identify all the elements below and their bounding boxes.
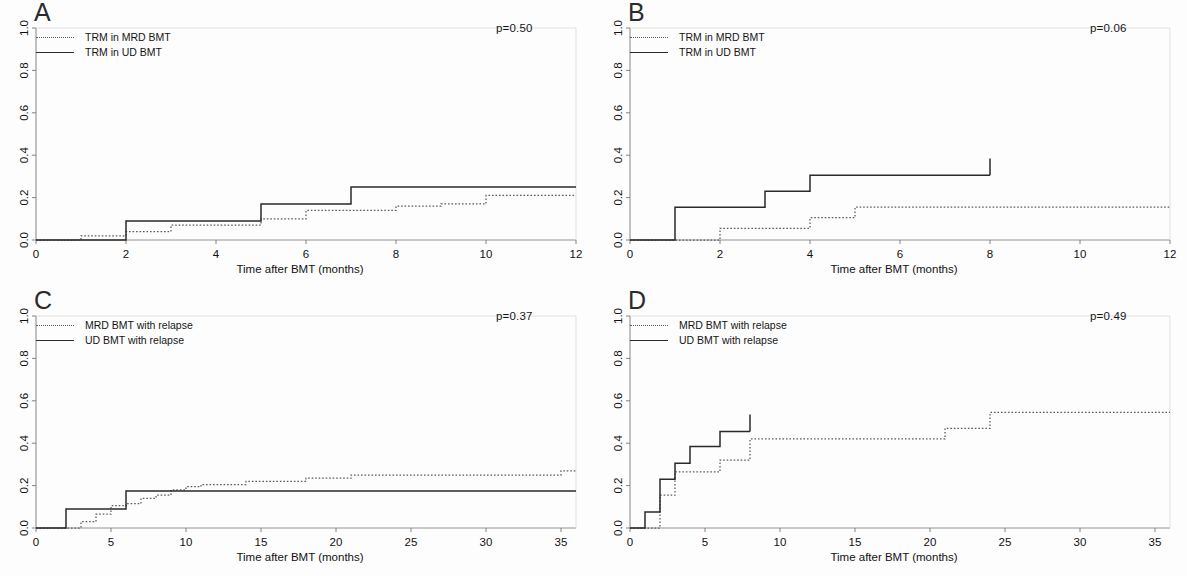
x-axis-title-c: Time after BMT (months) bbox=[150, 551, 450, 563]
y-tick-label: 0.8 bbox=[18, 350, 30, 366]
legend-label: UD BMT with relapse bbox=[85, 333, 184, 348]
x-tick-label: 35 bbox=[1149, 536, 1162, 548]
y-tick-label: 0.2 bbox=[612, 190, 624, 206]
series-line bbox=[36, 187, 576, 240]
legend-label: MRD BMT with relapse bbox=[85, 318, 193, 333]
series-line bbox=[36, 195, 576, 240]
dotted-line-swatch-icon bbox=[36, 37, 74, 38]
y-tick-label: 0.6 bbox=[612, 105, 624, 121]
y-tick-label: 0.0 bbox=[18, 520, 30, 536]
x-tick-label: 0 bbox=[627, 536, 633, 548]
x-tick-label: 30 bbox=[1074, 536, 1087, 548]
y-tick-label: 0.8 bbox=[18, 62, 30, 78]
legend-item: TRM in MRD BMT bbox=[36, 30, 171, 45]
x-tick-label: 12 bbox=[1164, 248, 1177, 260]
y-tick-label: 0.6 bbox=[18, 393, 30, 409]
x-tick-label: 0 bbox=[33, 536, 39, 548]
panel-d: D 0.00.20.40.60.81.005101520253035 p=0.4… bbox=[594, 288, 1187, 576]
x-tick-label: 15 bbox=[849, 536, 862, 548]
x-tick-label: 15 bbox=[255, 536, 268, 548]
x-tick-label: 10 bbox=[180, 536, 193, 548]
legend-label: UD BMT with relapse bbox=[679, 333, 778, 348]
x-tick-label: 25 bbox=[405, 536, 418, 548]
legend-b: TRM in MRD BMTTRM in UD BMT bbox=[630, 30, 765, 60]
x-tick-label: 20 bbox=[330, 536, 343, 548]
p-value-a: p=0.50 bbox=[496, 22, 533, 34]
dotted-line-swatch-icon bbox=[36, 325, 74, 326]
series-line bbox=[36, 491, 576, 528]
x-tick-label: 8 bbox=[987, 248, 993, 260]
p-value-c: p=0.37 bbox=[496, 310, 533, 322]
x-tick-label: 25 bbox=[999, 536, 1012, 548]
legend-label: TRM in MRD BMT bbox=[85, 30, 171, 45]
y-tick-label: 0.2 bbox=[612, 478, 624, 494]
solid-line-swatch-icon bbox=[630, 52, 668, 53]
x-tick-label: 8 bbox=[393, 248, 399, 260]
legend-item: TRM in UD BMT bbox=[630, 45, 765, 60]
legend-label: MRD BMT with relapse bbox=[679, 318, 787, 333]
x-tick-label: 6 bbox=[303, 248, 309, 260]
x-tick-label: 20 bbox=[924, 536, 937, 548]
legend-c: MRD BMT with relapseUD BMT with relapse bbox=[36, 318, 193, 348]
series-line bbox=[630, 412, 1170, 528]
x-tick-label: 35 bbox=[555, 536, 568, 548]
figure-container: A 0.00.20.40.60.81.0024681012 p=0.50 TRM… bbox=[0, 0, 1187, 576]
x-axis-title-d: Time after BMT (months) bbox=[744, 551, 1044, 563]
legend-item: UD BMT with relapse bbox=[630, 333, 787, 348]
y-tick-label: 0.4 bbox=[612, 147, 624, 164]
y-tick-label: 0.4 bbox=[612, 435, 624, 452]
x-tick-label: 4 bbox=[807, 248, 814, 260]
x-tick-label: 10 bbox=[480, 248, 493, 260]
solid-line-swatch-icon bbox=[630, 340, 668, 341]
x-axis-title-a: Time after BMT (months) bbox=[150, 263, 450, 275]
series-line bbox=[630, 175, 990, 240]
dotted-line-swatch-icon bbox=[630, 37, 668, 38]
p-value-d: p=0.49 bbox=[1090, 310, 1127, 322]
y-tick-label: 1.0 bbox=[612, 308, 624, 324]
x-tick-label: 6 bbox=[897, 248, 903, 260]
x-tick-label: 0 bbox=[627, 248, 633, 260]
y-tick-label: 1.0 bbox=[18, 20, 30, 36]
legend-label: TRM in UD BMT bbox=[85, 45, 162, 60]
series-line bbox=[630, 432, 750, 528]
y-tick-label: 0.6 bbox=[612, 393, 624, 409]
x-tick-label: 30 bbox=[480, 536, 493, 548]
legend-item: TRM in MRD BMT bbox=[630, 30, 765, 45]
panel-a: A 0.00.20.40.60.81.0024681012 p=0.50 TRM… bbox=[0, 0, 593, 288]
y-tick-label: 0.6 bbox=[18, 105, 30, 121]
legend-item: MRD BMT with relapse bbox=[36, 318, 193, 333]
y-tick-label: 0.2 bbox=[18, 190, 30, 206]
y-tick-label: 0.8 bbox=[612, 350, 624, 366]
x-tick-label: 2 bbox=[717, 248, 723, 260]
legend-a: TRM in MRD BMTTRM in UD BMT bbox=[36, 30, 171, 60]
x-tick-label: 10 bbox=[774, 536, 787, 548]
panel-c: C 0.00.20.40.60.81.005101520253035 p=0.3… bbox=[0, 288, 593, 576]
legend-item: UD BMT with relapse bbox=[36, 333, 193, 348]
solid-line-swatch-icon bbox=[36, 340, 74, 341]
x-axis-title-b: Time after BMT (months) bbox=[744, 263, 1044, 275]
panel-b: B 0.00.20.40.60.81.0024681012 p=0.06 TRM… bbox=[594, 0, 1187, 288]
x-tick-label: 2 bbox=[123, 248, 129, 260]
series-line bbox=[36, 471, 576, 528]
x-tick-label: 0 bbox=[33, 248, 39, 260]
series-line bbox=[630, 207, 1170, 240]
legend-d: MRD BMT with relapseUD BMT with relapse bbox=[630, 318, 787, 348]
y-tick-label: 0.4 bbox=[18, 435, 30, 452]
dotted-line-swatch-icon bbox=[630, 325, 668, 326]
y-tick-label: 0.0 bbox=[612, 232, 624, 248]
x-tick-label: 10 bbox=[1074, 248, 1087, 260]
legend-label: TRM in UD BMT bbox=[679, 45, 756, 60]
p-value-b: p=0.06 bbox=[1090, 22, 1127, 34]
solid-line-swatch-icon bbox=[36, 52, 74, 53]
y-tick-label: 1.0 bbox=[612, 20, 624, 36]
y-tick-label: 1.0 bbox=[18, 308, 30, 324]
legend-item: TRM in UD BMT bbox=[36, 45, 171, 60]
y-tick-label: 0.0 bbox=[18, 232, 30, 248]
legend-item: MRD BMT with relapse bbox=[630, 318, 787, 333]
x-tick-label: 5 bbox=[108, 536, 114, 548]
y-tick-label: 0.0 bbox=[612, 520, 624, 536]
legend-label: TRM in MRD BMT bbox=[679, 30, 765, 45]
x-tick-label: 12 bbox=[570, 248, 583, 260]
y-tick-label: 0.2 bbox=[18, 478, 30, 494]
x-tick-label: 5 bbox=[702, 536, 708, 548]
